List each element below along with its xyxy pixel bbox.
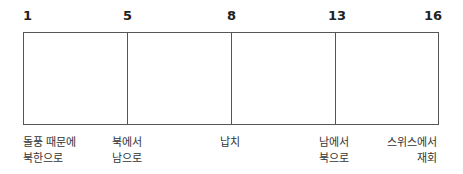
event-label-line: 북한으로 <box>23 151 77 167</box>
event-label-line: 스위스에서 <box>387 135 437 151</box>
tick-label-8: 8 <box>227 8 236 24</box>
event-label-2: 북에서 남으로 <box>112 135 142 167</box>
timeline-box <box>23 32 439 125</box>
event-label-5: 스위스에서 재회 <box>387 135 437 167</box>
tick-label-5: 5 <box>123 8 132 24</box>
event-label-line: 남으로 <box>112 151 142 167</box>
event-label-line: 북에서 <box>112 135 142 151</box>
tick-label-13: 13 <box>328 8 346 24</box>
tick-label-1: 1 <box>23 8 32 24</box>
event-label-4: 남에서 북으로 <box>319 135 349 167</box>
event-label-line: 재회 <box>387 151 437 167</box>
segment-divider <box>231 33 232 124</box>
event-label-3: 납치 <box>220 135 240 151</box>
event-label-line: 북으로 <box>319 151 349 167</box>
segment-divider <box>335 33 336 124</box>
segment-divider <box>127 33 128 124</box>
event-label-line: 돌풍 때문에 <box>23 135 77 151</box>
event-label-line: 납치 <box>220 135 240 151</box>
tick-label-16: 16 <box>424 8 442 24</box>
event-label-1: 돌풍 때문에 북한으로 <box>23 135 77 167</box>
event-label-line: 남에서 <box>319 135 349 151</box>
